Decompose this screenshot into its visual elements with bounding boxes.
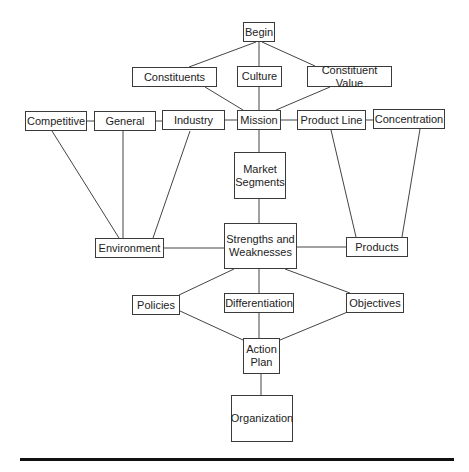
- node-differentiation: Differentiation: [224, 293, 294, 313]
- node-constituents: Constituents: [132, 67, 217, 87]
- node-constituent-value: Constituent Value: [307, 66, 392, 87]
- node-environment: Environment: [95, 238, 164, 258]
- node-organization: Organization: [231, 395, 293, 442]
- node-objectives: Objectives: [346, 293, 404, 313]
- node-concentration: Concentration: [373, 109, 445, 129]
- node-product-line: Product Line: [297, 110, 366, 130]
- node-policies: Policies: [132, 295, 180, 315]
- node-action-plan: Action Plan: [243, 338, 280, 374]
- node-industry: Industry: [162, 110, 225, 130]
- node-general: General: [94, 111, 156, 131]
- node-culture: Culture: [237, 66, 282, 87]
- node-products: Products: [346, 237, 408, 257]
- bottom-rule: [20, 458, 454, 461]
- node-competitive: Competitive: [25, 111, 87, 131]
- node-mission: Mission: [237, 110, 281, 130]
- node-market-segments: Market Segments: [234, 152, 286, 199]
- node-begin: Begin: [243, 22, 275, 42]
- node-strengths-weaknesses: Strengths and Weaknesses: [224, 223, 297, 269]
